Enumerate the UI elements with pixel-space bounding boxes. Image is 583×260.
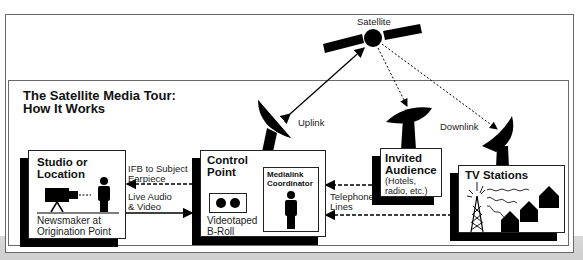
coordinator-box: Medialink Coordinator: [263, 167, 319, 232]
broll-caption-line-1: Videotaped: [207, 215, 257, 226]
telephone-label: Telephone Lines: [330, 192, 374, 212]
uplink-label: Uplink: [298, 118, 324, 128]
telephone-label-line-2: Lines: [330, 202, 374, 212]
live-av-label-line-2: & Video: [128, 202, 172, 212]
ifb-label-line-2: Earpiece: [128, 174, 188, 184]
audience-title-line-1: Invited: [385, 152, 437, 164]
invited-audience-box: Invited Audience (Hotels, radio, etc.): [380, 148, 442, 197]
studio-caption: Newsmaker at Origination Point: [37, 215, 111, 237]
audience-dish-icon: [386, 107, 432, 150]
tv-stations-box: TV Stations: [458, 165, 565, 233]
audience-title-line-2: Audience: [385, 164, 437, 176]
control-point-box: Control Point Videotaped B-Roll Medialin…: [200, 150, 326, 237]
audience-sub-line-2: radio, etc.): [385, 186, 428, 196]
satellite-label: Satellite: [357, 17, 391, 27]
downlink-arrow-audience: [378, 48, 407, 106]
satellite-icon: [323, 24, 422, 53]
tv-graphics: [459, 166, 566, 234]
uplink-arrow: [290, 48, 364, 114]
video-camera-icon: [45, 188, 78, 212]
studio-caption-line-1: Newsmaker at: [37, 215, 111, 226]
tv-dish-icon: [482, 116, 513, 168]
broadcast-tower-icon: [467, 182, 485, 232]
control-title-line-1: Control: [207, 154, 248, 166]
videotape-icon: [209, 193, 247, 213]
studio-box: Studio or Location Newsmaker at Originat…: [28, 150, 126, 239]
ifb-label: IFB to Subject Earpiece: [128, 164, 188, 184]
uplink-dish-icon: [258, 100, 291, 152]
coordinator-person-icon: [264, 168, 320, 233]
live-av-label: Live Audio & Video: [128, 192, 172, 212]
broll-caption-line-2: B-Roll: [207, 226, 257, 237]
broll-caption: Videotaped B-Roll: [207, 215, 257, 237]
control-title: Control Point: [207, 154, 248, 178]
house-icon: [501, 186, 559, 232]
audience-sub-line-1: (Hotels,: [385, 176, 428, 186]
studio-caption-line-2: Origination Point: [37, 226, 111, 237]
newsmaker-person-icon: [98, 177, 110, 212]
audience-title: Invited Audience: [385, 152, 437, 176]
downlink-label: Downlink: [440, 122, 479, 132]
control-title-line-2: Point: [207, 166, 248, 178]
audience-sub: (Hotels, radio, etc.): [385, 176, 428, 196]
